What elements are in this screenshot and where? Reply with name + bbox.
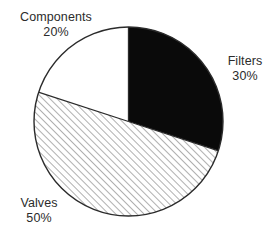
pie-label-filters: Filters 30%	[222, 54, 268, 83]
pie-label-valves: Valves 50%	[8, 196, 70, 225]
pie-label-components-percent: 20%	[10, 25, 102, 40]
pie-label-components-name: Components	[20, 10, 92, 24]
pie-label-components: Components 20%	[10, 10, 102, 39]
pie-label-valves-name: Valves	[20, 196, 57, 210]
pie-label-valves-percent: 50%	[8, 211, 70, 226]
pie-label-filters-percent: 30%	[222, 69, 268, 84]
pie-chart-figure: Components 20% Filters 30% Valves 50%	[0, 0, 272, 241]
pie-label-filters-name: Filters	[228, 54, 263, 68]
